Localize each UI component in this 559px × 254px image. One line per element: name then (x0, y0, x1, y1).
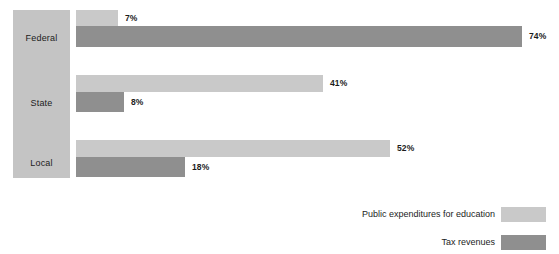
bar-state-tax-revenues (76, 92, 124, 112)
bar-chart: Federal State Local 7% 74% 41% 8% 52% 18… (0, 0, 559, 254)
bar-value-state-tax-revenues: 8% (131, 98, 144, 107)
plot-area: 7% 74% 41% 8% 52% 18% (76, 0, 559, 190)
bar-federal-public-expenditures (76, 10, 118, 26)
bar-value-local-public-expenditures: 52% (397, 144, 414, 153)
legend-label-tax-revenues: Tax revenues (441, 237, 495, 248)
bar-federal-tax-revenues (76, 26, 522, 47)
bar-local-public-expenditures (76, 140, 390, 157)
category-label-state: State (13, 98, 70, 108)
legend-label-public-expenditures: Public expenditures for education (362, 209, 495, 220)
bar-value-federal-public-expenditures: 7% (125, 14, 138, 23)
category-label-federal: Federal (13, 33, 70, 43)
legend-swatch-public-expenditures (501, 207, 546, 222)
bar-value-federal-tax-revenues: 74% (529, 32, 546, 41)
chart-legend: Public expenditures for education Tax re… (300, 203, 550, 251)
bar-state-public-expenditures (76, 75, 323, 92)
legend-item-tax-revenues: Tax revenues (300, 234, 546, 250)
category-label-local: Local (13, 158, 70, 168)
bar-local-tax-revenues (76, 157, 185, 177)
legend-swatch-tax-revenues (501, 235, 546, 250)
bar-value-state-public-expenditures: 41% (330, 79, 347, 88)
bar-value-local-tax-revenues: 18% (192, 163, 209, 172)
legend-item-public-expenditures: Public expenditures for education (300, 206, 546, 222)
category-axis-panel: Federal State Local (13, 10, 70, 178)
